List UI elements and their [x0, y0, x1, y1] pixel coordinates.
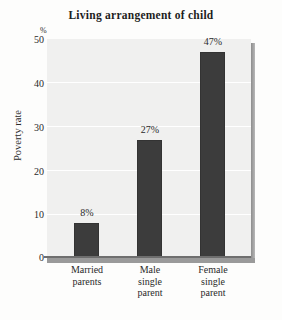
bar-value-label: 47%	[186, 36, 240, 47]
x-tick-label-female-single-parent: Female single parent	[174, 264, 252, 299]
y-tick-label: 30	[2, 122, 44, 133]
bar-value-label: 27%	[123, 124, 177, 135]
y-tick-label: 50	[2, 34, 44, 45]
y-tick-label: 0	[2, 252, 44, 263]
y-axis-tick-labels: 50 40 30 20 10 0	[0, 0, 44, 320]
x-tick-line: parent	[174, 287, 252, 299]
plot-right-shadow	[251, 43, 255, 260]
bar-male-single-parent[interactable]	[137, 140, 162, 258]
x-axis-line	[44, 256, 251, 258]
bar-value-label: 8%	[60, 207, 114, 218]
plot-area: 8% 27% 47%	[47, 39, 251, 258]
y-tick-label: 20	[2, 166, 44, 177]
x-tick-line: Female	[174, 264, 252, 276]
plot-bottom-shadow	[47, 258, 255, 263]
bar-married-parents[interactable]	[74, 223, 99, 258]
bar-female-single-parent[interactable]	[200, 52, 225, 258]
x-tick-line: single	[174, 276, 252, 288]
y-tick-label: 40	[2, 78, 44, 89]
y-tick-label: 10	[2, 209, 44, 220]
chart-figure: Living arrangement of child Poverty rate…	[0, 0, 282, 320]
